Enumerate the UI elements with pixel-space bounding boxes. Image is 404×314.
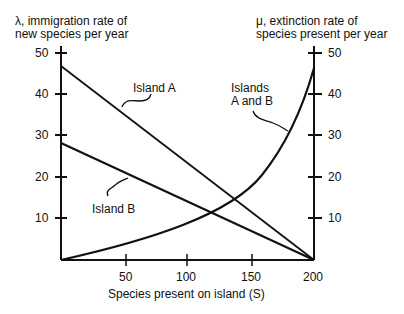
left-tick-40: 40 <box>35 88 48 100</box>
island-b-label: Island B <box>92 203 135 216</box>
right-tick-20: 20 <box>328 171 341 183</box>
island-a-label: Island A <box>133 82 176 95</box>
left-axis-title: λ, immigration rate of new species per y… <box>15 15 128 41</box>
x-tick-50: 50 <box>119 271 132 283</box>
right-axis-title-line2: species present per year <box>256 28 387 41</box>
right-tick-10: 10 <box>328 212 341 224</box>
right-tick-30: 30 <box>328 129 341 141</box>
left-tick-20: 20 <box>35 171 48 183</box>
right-tick-50: 50 <box>328 47 341 59</box>
left-tick-30: 30 <box>35 129 48 141</box>
island-b-callout <box>107 178 128 196</box>
left-tick-50: 50 <box>35 47 48 59</box>
x-tick-200: 200 <box>303 271 323 283</box>
x-tick-150: 150 <box>241 271 261 283</box>
left-axis-title-line2: new species per year <box>15 28 128 41</box>
right-axis-title: μ, extinction rate of species present pe… <box>256 15 387 41</box>
island-a-callout <box>122 94 151 107</box>
x-tick-100: 100 <box>176 271 196 283</box>
islands-ab-label-line2: A and B <box>231 95 273 108</box>
island-a-immigration-line <box>61 66 314 260</box>
right-tick-40: 40 <box>328 88 341 100</box>
islands-ab-callout <box>253 111 288 131</box>
islands-ab-label: Islands A and B <box>231 82 273 108</box>
x-axis-title: Species present on island (S) <box>108 288 265 301</box>
left-tick-10: 10 <box>35 212 48 224</box>
chart-plot <box>0 0 404 314</box>
